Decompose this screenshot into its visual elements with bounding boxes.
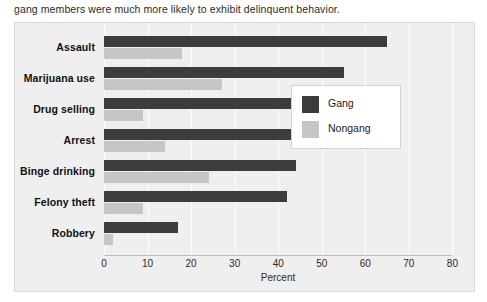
- bar-row: Marijuana use: [15, 66, 474, 97]
- caption-text: gang members were much more likely to ex…: [14, 2, 474, 16]
- bar-nongang-assault: [104, 48, 182, 59]
- x-axis-title: Percent: [104, 272, 452, 283]
- category-label-arrest: Arrest: [15, 134, 95, 146]
- bar-gang-robbery: [104, 222, 178, 233]
- bar-row: Assault: [15, 35, 474, 66]
- bar-nongang-binge-drinking: [104, 172, 209, 183]
- category-label-drug-selling: Drug selling: [15, 103, 95, 115]
- x-tick-50: 50: [307, 258, 337, 269]
- bar-row: Binge drinking: [15, 159, 474, 190]
- x-tick-80: 80: [437, 258, 467, 269]
- bar-nongang-arrest: [104, 141, 165, 152]
- legend-swatch-gang: [302, 96, 319, 113]
- category-label-robbery: Robbery: [15, 227, 95, 239]
- figure-page: gang members were much more likely to ex…: [0, 0, 487, 302]
- bar-gang-felony-theft: [104, 191, 287, 202]
- category-label-felony-theft: Felony theft: [15, 196, 95, 208]
- bar-row: Robbery: [15, 221, 474, 252]
- bar-gang-assault: [104, 36, 387, 47]
- x-tick-0: 0: [89, 258, 119, 269]
- bar-row: Arrest: [15, 128, 474, 159]
- bar-row: Felony theft: [15, 190, 474, 221]
- category-label-binge-drinking: Binge drinking: [15, 165, 95, 177]
- axis-line: [104, 255, 452, 256]
- bar-nongang-robbery: [104, 234, 113, 245]
- x-tick-40: 40: [263, 258, 293, 269]
- chart-figure: AssaultMarijuana useDrug sellingArrestBi…: [14, 22, 475, 292]
- x-tick-10: 10: [133, 258, 163, 269]
- plot-area: AssaultMarijuana useDrug sellingArrestBi…: [15, 23, 474, 291]
- bar-gang-binge-drinking: [104, 160, 296, 171]
- x-tick-60: 60: [350, 258, 380, 269]
- legend-label-gang: Gang: [328, 97, 354, 109]
- category-label-marijuana-use: Marijuana use: [15, 72, 95, 84]
- bar-nongang-drug-selling: [104, 110, 143, 121]
- bar-nongang-marijuana-use: [104, 79, 222, 90]
- legend-swatch-nongang: [302, 121, 319, 138]
- bar-row: Drug selling: [15, 97, 474, 128]
- bar-nongang-felony-theft: [104, 203, 143, 214]
- x-tick-70: 70: [394, 258, 424, 269]
- x-tick-30: 30: [220, 258, 250, 269]
- legend-label-nongang: Nongang: [328, 122, 371, 134]
- legend: Gang Nongang: [291, 85, 401, 149]
- bar-gang-marijuana-use: [104, 67, 344, 78]
- x-axis: Percent 01020304050607080: [15, 255, 474, 291]
- x-tick-20: 20: [176, 258, 206, 269]
- category-label-assault: Assault: [15, 41, 95, 53]
